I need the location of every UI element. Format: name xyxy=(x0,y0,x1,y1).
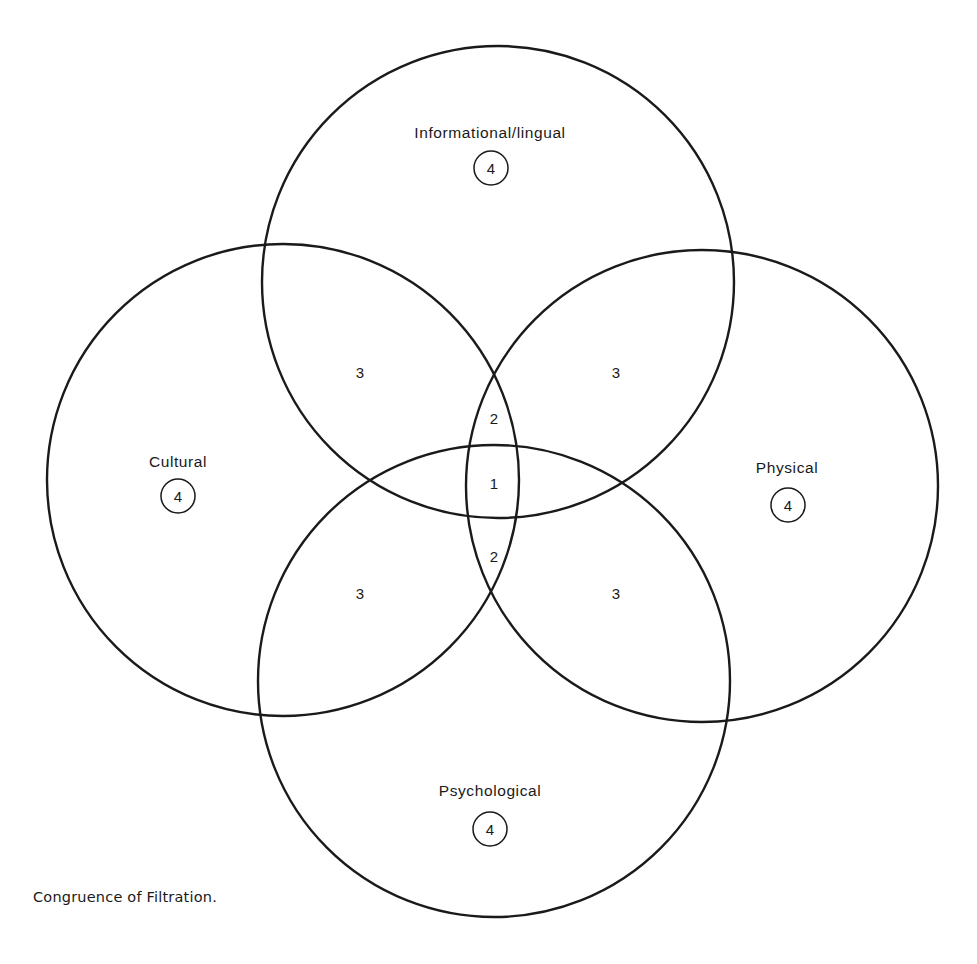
region-triple-top: 2 xyxy=(490,410,498,427)
badge-psychological: 4 xyxy=(473,812,507,846)
badge-informational: 4 xyxy=(474,151,508,185)
badge-physical: 4 xyxy=(771,488,805,522)
badge-value: 4 xyxy=(174,488,182,505)
region-cultural-psych: 3 xyxy=(356,585,364,602)
circle-informational xyxy=(262,46,734,518)
region-info-cultural: 3 xyxy=(356,364,364,381)
figure-caption: Congruence of Filtration. xyxy=(33,889,217,905)
region-all-four: 1 xyxy=(490,475,498,492)
venn-region-values: 3333212 xyxy=(356,364,620,602)
region-info-physical: 3 xyxy=(612,364,620,381)
set-label-physical: Physical xyxy=(756,459,819,476)
badge-value: 4 xyxy=(487,160,495,177)
badge-value: 4 xyxy=(486,821,494,838)
region-triple-bottom: 2 xyxy=(490,548,498,565)
venn-diagram: Informational/lingual4Cultural4Physical4… xyxy=(0,0,977,964)
circle-cultural xyxy=(47,244,519,716)
badge-cultural: 4 xyxy=(161,479,195,513)
badge-value: 4 xyxy=(784,497,792,514)
set-label-cultural: Cultural xyxy=(149,453,207,470)
circle-physical xyxy=(466,250,938,722)
region-physical-psych: 3 xyxy=(612,585,620,602)
venn-set-labels: Informational/lingual4Cultural4Physical4… xyxy=(149,124,818,846)
set-label-psychological: Psychological xyxy=(439,782,542,799)
set-label-informational: Informational/lingual xyxy=(414,124,565,141)
